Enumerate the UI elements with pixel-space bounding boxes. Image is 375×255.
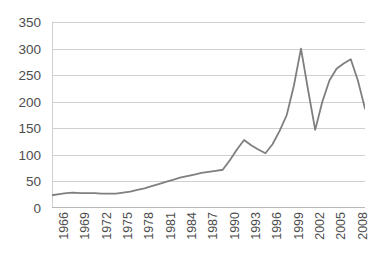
y-tick-label: 300	[18, 41, 41, 56]
x-tick-label: 1987	[206, 212, 220, 240]
x-tick-label: 1966	[57, 212, 71, 240]
series-layer	[52, 22, 365, 208]
x-tick-label: 2005	[334, 212, 348, 240]
x-axis-labels: 1966196919721975197819811984198719901993…	[52, 210, 365, 255]
x-tick-label: 1993	[249, 212, 263, 240]
y-axis-labels: 050100150200250300350	[0, 0, 48, 210]
x-tick-label: 1981	[164, 212, 178, 240]
plot-area	[52, 22, 365, 208]
y-tick-label: 200	[18, 94, 41, 109]
series-1-line	[52, 22, 365, 208]
y-tick-label: 50	[26, 174, 41, 189]
x-tick-label: 1996	[270, 212, 284, 240]
y-tick-label: 350	[18, 15, 41, 30]
y-tick-label: 250	[18, 68, 41, 83]
x-tick-label: 1990	[228, 212, 242, 240]
x-tick-label: 1969	[78, 212, 92, 240]
x-tick-label: 1984	[185, 212, 199, 240]
y-tick-label: 0	[33, 201, 41, 216]
x-tick-label: 1972	[100, 212, 114, 240]
x-tick-label: 1999	[292, 212, 306, 240]
x-tick-label: 2008	[356, 212, 370, 240]
x-tick-label: 1975	[121, 212, 135, 240]
y-tick-label: 150	[18, 121, 41, 136]
y-tick-label: 100	[18, 147, 41, 162]
x-tick-label: 1978	[142, 212, 156, 240]
x-tick-label: 2002	[313, 212, 327, 240]
line-chart: 050100150200250300350 196619691972197519…	[0, 0, 375, 255]
